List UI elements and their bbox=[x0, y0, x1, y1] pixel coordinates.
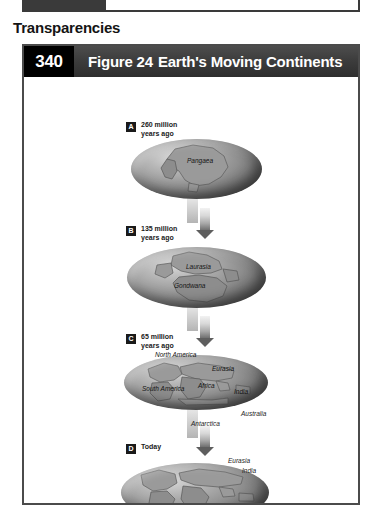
figure-body: A 260 million years ago Pangaea B 135 mi… bbox=[24, 77, 358, 503]
globe-b bbox=[127, 247, 266, 308]
step-time-c: 65 million years ago bbox=[141, 333, 174, 350]
step-time-a: 260 million years ago bbox=[141, 121, 177, 138]
arrow-c-to-d bbox=[200, 426, 210, 456]
figure-title-group: Figure 24Earth's Moving Continents bbox=[88, 53, 342, 70]
step-time-b: 135 million years ago bbox=[141, 225, 177, 242]
step-label-c: C 65 million years ago bbox=[126, 333, 174, 350]
globe-a bbox=[131, 139, 262, 199]
map-label-india-d: India bbox=[242, 467, 256, 475]
map-label-australia-c: Australia bbox=[241, 410, 266, 418]
globe-b-landmass bbox=[127, 247, 266, 308]
arrow-a-to-b bbox=[200, 208, 210, 239]
globe-c-landmass bbox=[124, 355, 268, 410]
step-label-a: A 260 million years ago bbox=[126, 121, 177, 138]
step-badge-d: D bbox=[126, 444, 136, 454]
step-label-d: D Today bbox=[126, 443, 161, 454]
map-label-india-c: India bbox=[234, 388, 248, 396]
figure-header: 340 Figure 24Earth's Moving Continents bbox=[24, 46, 358, 77]
figure-label: Figure 24 bbox=[88, 53, 153, 70]
globe-pedestal-b bbox=[187, 305, 198, 331]
top-cutoff-tab bbox=[22, 0, 105, 12]
top-rule-right-cap bbox=[358, 0, 360, 12]
step-badge-c: C bbox=[126, 334, 136, 344]
map-label-pangaea: Pangaea bbox=[187, 157, 213, 165]
step-badge-b: B bbox=[126, 226, 136, 236]
step-badge-a: A bbox=[126, 122, 136, 132]
map-label-africa: Africa bbox=[198, 382, 215, 390]
map-label-south-america: South America bbox=[142, 385, 184, 393]
step-time-d: Today bbox=[141, 443, 161, 452]
globe-c bbox=[124, 355, 268, 410]
map-label-laurasia: Laurasia bbox=[186, 263, 211, 271]
top-rule bbox=[104, 10, 360, 12]
step-label-b: B 135 million years ago bbox=[126, 225, 177, 242]
arrow-b-to-c bbox=[200, 316, 210, 347]
page-title: Earth's Moving Continents bbox=[158, 53, 342, 70]
map-label-north-america: North America bbox=[155, 351, 196, 359]
page-number-badge: 340 bbox=[24, 46, 74, 77]
top-cutoff-strip bbox=[22, 0, 360, 14]
figure-container: 340 Figure 24Earth's Moving Continents A… bbox=[22, 44, 360, 505]
map-label-gondwana: Gondwana bbox=[174, 282, 205, 290]
map-label-eurasia-d: Eurasia bbox=[228, 457, 250, 465]
globe-a-landmass bbox=[131, 139, 262, 199]
map-label-eurasia-c: Eurasia bbox=[212, 365, 234, 373]
globe-pedestal-a bbox=[187, 197, 198, 223]
section-heading: Transparencies bbox=[13, 19, 120, 36]
